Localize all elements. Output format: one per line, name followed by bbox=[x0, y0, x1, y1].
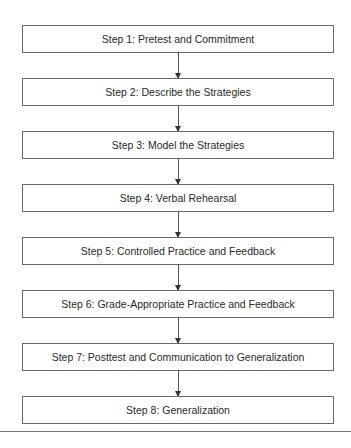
step-label: Step 2: Describe the Strategies bbox=[105, 86, 250, 98]
step-label: Step 5: Controlled Practice and Feedback bbox=[81, 245, 275, 257]
step-label: Step 8: Generalization bbox=[126, 404, 230, 416]
step-4-box: Step 4: Verbal Rehearsal bbox=[22, 184, 334, 212]
step-3-box: Step 3: Model the Strategies bbox=[22, 131, 334, 159]
step-1-box: Step 1: Pretest and Commitment bbox=[22, 25, 334, 53]
step-8-box: Step 8: Generalization bbox=[22, 396, 334, 424]
arrow-down-icon bbox=[178, 52, 179, 78]
arrow-down-icon bbox=[178, 211, 179, 237]
step-label: Step 1: Pretest and Commitment bbox=[102, 33, 254, 45]
arrow-down-icon bbox=[178, 317, 179, 343]
step-6-box: Step 6: Grade-Appropriate Practice and F… bbox=[22, 290, 334, 318]
bottom-divider bbox=[0, 431, 351, 432]
step-label: Step 3: Model the Strategies bbox=[112, 139, 245, 151]
arrow-down-icon bbox=[178, 370, 179, 396]
step-label: Step 7: Posttest and Communication to Ge… bbox=[52, 351, 305, 363]
step-label: Step 6: Grade-Appropriate Practice and F… bbox=[61, 298, 294, 310]
step-2-box: Step 2: Describe the Strategies bbox=[22, 78, 334, 106]
step-label: Step 4: Verbal Rehearsal bbox=[120, 192, 237, 204]
arrow-down-icon bbox=[178, 264, 179, 290]
step-7-box: Step 7: Posttest and Communication to Ge… bbox=[22, 343, 334, 371]
step-5-box: Step 5: Controlled Practice and Feedback bbox=[22, 237, 334, 265]
arrow-down-icon bbox=[178, 105, 179, 131]
arrow-down-icon bbox=[178, 158, 179, 184]
